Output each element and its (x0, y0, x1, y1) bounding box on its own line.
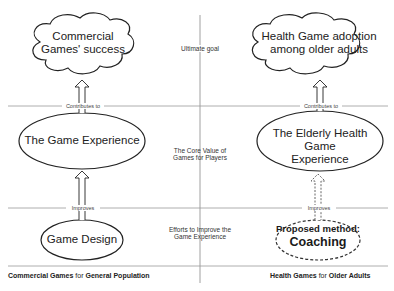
right-footer-mid: for (317, 272, 329, 279)
right-experience-line1: The Elderly Health Game (258, 127, 382, 153)
right-method-text: Proposed method: Coaching (274, 224, 362, 249)
row-label-core-value: The Core Value of Games for Players (160, 147, 240, 162)
row-label-efforts: Efforts to Improve the Game Experience (160, 226, 240, 241)
coaching-label: Coaching (274, 235, 362, 249)
right-footer-bold1: Health Games (270, 272, 317, 279)
efforts-line1: Efforts to Improve the (160, 226, 240, 233)
edge-label-improves-left: Improves (66, 205, 100, 211)
right-footer: Health Games for Older Adults (270, 272, 390, 280)
arrow-improves-right-dashed (311, 174, 325, 220)
left-footer-bold2: General Population (85, 272, 149, 279)
edge-label-improves-right: Improves (302, 205, 336, 211)
right-footer-bold2: Older Adults (329, 272, 371, 279)
left-experience-text: The Game Experience (22, 134, 142, 147)
left-goal-line2: Games' success (38, 43, 128, 56)
right-goal-line1: Health Game adoption (252, 30, 386, 43)
core-value-line2: Games for Players (160, 154, 240, 161)
core-value-line1: The Core Value of (160, 147, 240, 154)
proposed-method-label: Proposed method: (274, 224, 362, 235)
right-experience-text: The Elderly Health Game Experience (258, 127, 382, 167)
left-footer: Commercial Games for General Population (8, 272, 188, 280)
edge-label-contributes-right: Contributes to (300, 103, 342, 109)
left-method-text: Game Design (42, 233, 122, 246)
right-experience-line2: Experience (258, 153, 382, 166)
left-goal-line1: Commercial (38, 30, 128, 43)
right-goal-text: Health Game adoption among older adults (252, 30, 386, 56)
arrow-improves-left (75, 171, 89, 220)
edge-label-contributes-left: Contributes to (62, 103, 104, 109)
efforts-line2: Game Experience (160, 233, 240, 240)
row-label-goal: Ultimate goal (160, 45, 240, 52)
left-goal-text: Commercial Games' success (38, 30, 128, 56)
right-goal-line2: among older adults (252, 43, 386, 56)
left-footer-mid: for (73, 272, 85, 279)
left-footer-bold1: Commercial Games (8, 272, 73, 279)
